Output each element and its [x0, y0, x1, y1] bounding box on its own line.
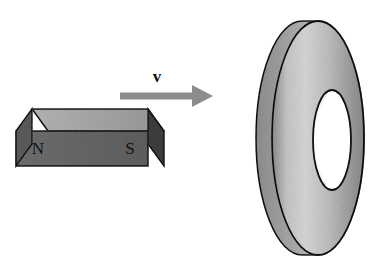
- velocity-arrow: v: [120, 67, 213, 107]
- magnet-end-face: [148, 109, 164, 166]
- bar-magnet: N S: [16, 109, 164, 166]
- conducting-ring: [256, 21, 364, 255]
- velocity-arrow-shaft: [120, 93, 196, 100]
- physics-figure: N S v: [0, 0, 383, 267]
- velocity-arrow-head: [192, 85, 213, 107]
- figure-canvas: N S v: [0, 0, 383, 267]
- magnet-top-face: [32, 109, 164, 131]
- magnet-north-label: N: [32, 139, 44, 158]
- velocity-label: v: [153, 67, 162, 86]
- magnet-south-label: S: [125, 139, 134, 158]
